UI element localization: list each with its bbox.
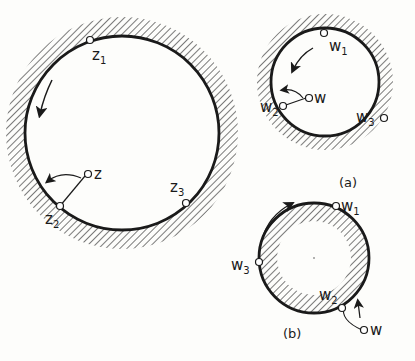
point-w (361, 327, 368, 334)
point-w1 (333, 203, 340, 210)
figure-canvas: z1 z2 z3 z w1 w2 w3 w (a) w1 w2 w3 w (0, 0, 415, 361)
center-dot (313, 257, 315, 259)
point-w2 (339, 305, 346, 312)
label-w: w (370, 321, 382, 339)
w-plane-diagram-b: w1 w2 w3 w (b) (0, 0, 415, 361)
interior-hatching (0, 0, 415, 361)
point-w3 (256, 259, 263, 266)
caption-b: (b) (283, 326, 301, 341)
